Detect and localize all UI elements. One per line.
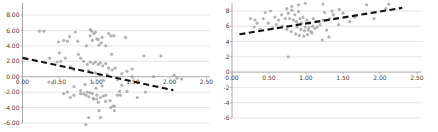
data-point <box>256 22 259 25</box>
x-tick-label: 0.00 <box>16 78 30 85</box>
x-tick-label: 2.00 <box>163 78 177 85</box>
data-point <box>97 101 100 104</box>
data-point <box>288 17 291 20</box>
data-point <box>94 30 97 33</box>
data-point <box>104 94 107 97</box>
data-point <box>102 79 105 82</box>
data-point <box>48 57 51 60</box>
data-point <box>66 91 69 94</box>
data-point <box>373 17 376 20</box>
data-point <box>99 96 102 99</box>
data-point <box>304 25 307 28</box>
data-point <box>84 94 87 97</box>
trendline <box>239 8 402 34</box>
data-point <box>104 44 107 47</box>
data-point <box>57 40 60 43</box>
data-point <box>144 91 147 94</box>
data-point <box>173 74 176 77</box>
data-point <box>273 16 276 19</box>
data-point <box>301 16 304 19</box>
data-point <box>87 116 90 119</box>
data-point <box>176 77 179 80</box>
data-point <box>107 67 110 70</box>
data-point <box>323 11 326 14</box>
data-point <box>290 9 293 12</box>
data-point <box>64 57 67 60</box>
y-tick-label: 4 <box>226 38 230 45</box>
data-point <box>297 10 300 13</box>
data-point <box>69 96 72 99</box>
data-point <box>59 60 62 63</box>
data-point <box>297 3 300 6</box>
data-point <box>124 36 127 39</box>
data-point <box>91 39 94 42</box>
data-point <box>110 53 113 56</box>
x-tick-label: 1.00 <box>299 74 313 81</box>
data-point <box>104 62 107 65</box>
y-tick-label: -2.00 <box>4 88 20 95</box>
data-point <box>275 23 278 26</box>
data-point <box>100 36 103 39</box>
data-point <box>62 92 65 95</box>
data-point <box>97 109 100 112</box>
y-tick-label: -6 <box>224 114 230 121</box>
y-tick-label: -4 <box>224 99 230 106</box>
data-point <box>114 67 117 70</box>
data-point <box>79 89 82 92</box>
x-tick-label: 2.50 <box>200 78 214 85</box>
data-point <box>86 91 89 94</box>
data-point <box>285 28 288 31</box>
data-point <box>337 23 340 26</box>
data-point <box>118 90 121 93</box>
data-point <box>306 33 309 36</box>
data-point <box>89 60 92 63</box>
data-point <box>131 75 134 78</box>
data-point <box>159 54 162 57</box>
data-point <box>120 84 123 87</box>
data-point <box>99 61 102 64</box>
data-point <box>77 53 80 56</box>
data-point <box>180 77 183 80</box>
data-point <box>284 17 287 20</box>
data-point <box>299 28 302 31</box>
y-tick-label: 2 <box>226 53 230 60</box>
data-point <box>332 13 335 16</box>
x-axis-tick-labels: 0.000.501.001.502.002.50 <box>16 77 214 86</box>
y-tick-label: 6 <box>226 22 230 29</box>
data-point <box>113 109 116 112</box>
x-tick-label: 2.50 <box>410 74 424 81</box>
data-point <box>82 60 85 63</box>
data-point <box>94 60 97 63</box>
data-point <box>62 39 65 42</box>
data-point <box>111 68 114 71</box>
data-point <box>51 81 54 84</box>
data-point <box>112 34 115 37</box>
data-point <box>100 41 103 44</box>
x-tick-label: 0.50 <box>53 78 67 85</box>
data-point <box>294 32 297 35</box>
data-point <box>100 84 103 87</box>
data-point <box>72 85 75 88</box>
data-point <box>290 5 293 8</box>
data-point <box>104 100 107 103</box>
data-point <box>97 44 100 47</box>
data-point <box>287 12 290 15</box>
data-point <box>99 116 102 119</box>
data-point <box>76 40 79 43</box>
x-tick-label: 1.50 <box>336 74 350 81</box>
data-point <box>84 83 87 86</box>
y-tick-label: -6.00 <box>4 119 20 126</box>
gridlines <box>230 11 422 118</box>
data-point <box>72 94 75 97</box>
data-point <box>280 13 283 16</box>
scatter-chart-negative-trend: 8.006.004.002.000.00-2.00-4.00-6.000.000… <box>0 0 219 132</box>
data-point <box>131 67 134 70</box>
data-point <box>295 20 298 23</box>
y-tick-label: -4.00 <box>4 104 20 111</box>
data-point <box>95 94 98 97</box>
data-point <box>125 70 128 73</box>
data-point <box>387 3 390 6</box>
data-point <box>116 94 119 97</box>
data-point <box>249 17 252 20</box>
data-point <box>91 92 94 95</box>
